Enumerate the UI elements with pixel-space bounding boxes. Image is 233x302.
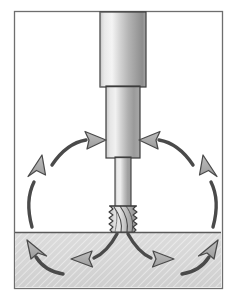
technical-illustration: Rotary cutting tool in workpiece with ch… [0,0,233,302]
tool-collar [106,86,140,158]
workpiece-label-text: workpiece [2,10,21,15]
cutter-label-text: fluted cutter [2,40,24,45]
figure-canvas: Rotary cutting tool in workpiece with ch… [0,0,233,302]
figure-title-text: Rotary cutting tool in workpiece with ch… [2,4,99,9]
flow-label-text: material / coolant flow direction [2,46,57,51]
collar-label-text: collar [2,28,12,33]
tool-shank [115,157,131,207]
holder-label-text: tool holder [2,22,21,27]
workpiece-group [15,232,221,287]
tool-label-text: rotary cutting tool [2,16,33,21]
cutter-flutes [109,206,137,232]
workpiece-texture [15,232,221,287]
tool-holder [100,12,146,87]
shank-label-text: shank [2,34,13,39]
